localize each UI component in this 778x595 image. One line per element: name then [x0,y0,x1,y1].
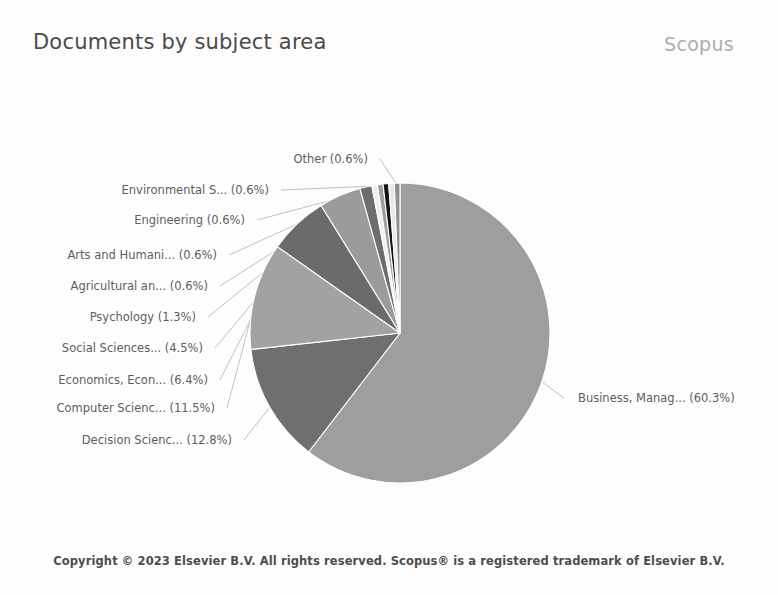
pie-slice-label: Decision Scienc... (12.8%) [82,433,232,447]
pie-slice-label: Social Sciences... (4.5%) [62,341,203,355]
pie-slice-label: Engineering (0.6%) [134,213,245,227]
pie-leader-line [540,381,564,398]
page-title: Documents by subject area [33,30,326,54]
pie-leader-line [244,406,271,440]
pie-leader-line [380,159,397,185]
pie-slice-label: Agricultural an... (0.6%) [71,279,208,293]
page-footer: Copyright © 2023 Elsevier B.V. All right… [0,550,778,569]
scopus-brand-logo: Scopus [664,33,734,55]
pie-chart-container: Business, Manag... (60.3%)Decision Scien… [0,95,778,515]
pie-slice-label: Environmental S... (0.6%) [122,183,269,197]
pie-slice-label: Other (0.6%) [294,152,369,166]
pie-slice-label: Psychology (1.3%) [90,310,196,324]
pie-slice-label: Arts and Humani... (0.6%) [67,248,217,262]
pie-slice-label: Business, Manag... (60.3%) [578,391,735,405]
copyright-notice: Copyright © 2023 Elsevier B.V. All right… [53,554,724,568]
pie-chart-svg: Business, Manag... (60.3%)Decision Scien… [0,95,778,515]
chart-page: Documents by subject area Scopus Busines… [0,0,778,595]
pie-slice-group [250,183,550,483]
pie-slice-label: Economics, Econ... (6.4%) [58,373,208,387]
pie-slice-label: Computer Scienc... (11.5%) [57,401,215,415]
page-header: Documents by subject area Scopus [0,0,778,90]
